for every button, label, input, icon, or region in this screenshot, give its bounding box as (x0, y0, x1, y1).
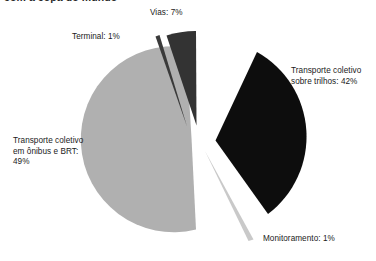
pie-slice-onibus-brt[interactable] (81, 46, 196, 232)
pie-chart-graphic (0, 0, 376, 261)
pie-label-vias: Vias: 7% (150, 8, 183, 19)
pie-label-onibus-brt: Transporte coletivo em ônibus e BRT: 49% (13, 136, 91, 168)
pie-label-terminal: Terminal: 1% (72, 32, 120, 43)
pie-label-trilhos: Transporte coletivo sobre trilhos: 42% (291, 66, 375, 87)
chart-canvas: com a copa do mundo Vias: 7% Terminal: 1… (0, 0, 376, 261)
pie-label-monitoramento: Monitoramento: 1% (263, 234, 335, 245)
